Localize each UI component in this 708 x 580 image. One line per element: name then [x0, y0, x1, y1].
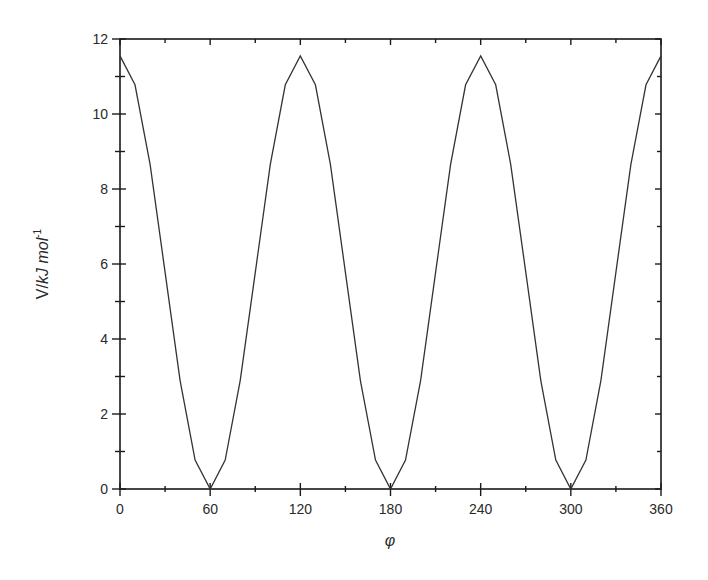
y-tick-labels: 024681012: [92, 31, 108, 497]
y-tick-label: 0: [100, 481, 108, 497]
x-tick-label: 300: [559, 501, 583, 517]
y-tick-label: 6: [100, 256, 108, 272]
y-label-sup: -1: [32, 228, 43, 237]
x-axis-label: φ: [385, 532, 395, 549]
chart: 060120180240300360 024681012 φ V/kJ mol-…: [0, 0, 708, 580]
x-tick-label: 360: [649, 501, 673, 517]
series-line: [120, 56, 661, 489]
x-tick-label: 120: [289, 501, 313, 517]
x-tick-labels: 060120180240300360: [116, 501, 673, 517]
y-axis-label: V/kJ mol-1: [32, 228, 51, 299]
x-tick-label: 180: [379, 501, 403, 517]
y-tick-label: 10: [92, 106, 108, 122]
y-tick-label: 12: [92, 31, 108, 47]
plot-border: [120, 39, 661, 489]
y-tick-label: 2: [100, 406, 108, 422]
x-tick-label: 240: [469, 501, 493, 517]
y-label-unit: kJ mol: [34, 237, 51, 284]
y-tick-label: 4: [100, 331, 108, 347]
x-tick-label: 60: [202, 501, 218, 517]
x-tick-label: 0: [116, 501, 124, 517]
y-tick-label: 8: [100, 181, 108, 197]
axis-ticks: [112, 39, 661, 496]
plot-frame: [120, 39, 661, 489]
y-label-prefix: V/: [34, 283, 51, 299]
